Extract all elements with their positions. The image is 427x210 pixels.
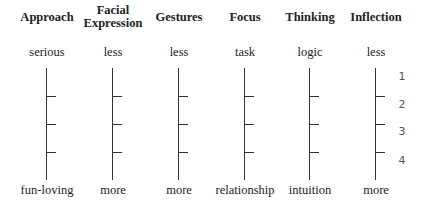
tick-mark bbox=[47, 96, 56, 97]
tick-mark bbox=[113, 124, 122, 125]
column-header: Inflection bbox=[336, 11, 416, 24]
scale-number: 3 bbox=[396, 125, 408, 138]
top-label: less bbox=[326, 45, 426, 59]
tick-mark bbox=[310, 152, 319, 153]
tick-mark bbox=[376, 96, 385, 97]
scale-number: 2 bbox=[396, 98, 408, 111]
tick-mark bbox=[179, 124, 188, 125]
tick-mark bbox=[113, 96, 122, 97]
tick-mark bbox=[310, 96, 319, 97]
tick-mark bbox=[310, 124, 319, 125]
tick-mark bbox=[113, 152, 122, 153]
tick-mark bbox=[376, 124, 385, 125]
tick-mark bbox=[245, 96, 254, 97]
tick-mark bbox=[179, 152, 188, 153]
scale-number: 1 bbox=[396, 70, 408, 83]
tick-mark bbox=[245, 152, 254, 153]
tick-mark bbox=[179, 96, 188, 97]
tick-mark bbox=[47, 152, 56, 153]
tick-mark bbox=[47, 124, 56, 125]
bottom-label: more bbox=[326, 183, 426, 197]
scale-number: 4 bbox=[396, 154, 408, 167]
tick-mark bbox=[245, 124, 254, 125]
tick-mark bbox=[376, 152, 385, 153]
